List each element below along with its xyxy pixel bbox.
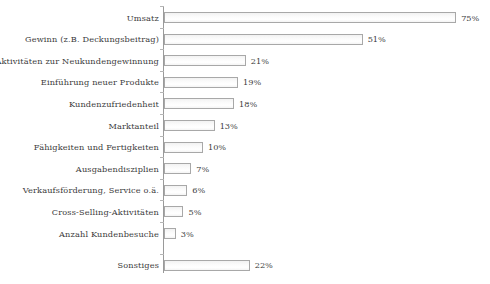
axis-tick <box>160 28 164 29</box>
bar-category-label: Sonstiges <box>117 261 159 269</box>
bar-row: Sonstiges22% <box>0 260 490 271</box>
bar <box>164 12 456 23</box>
axis-tick <box>160 136 164 137</box>
bar-value-label: 21% <box>251 57 269 65</box>
bar-value-label: 51% <box>368 35 386 43</box>
plot-area: Umsatz75%Gewinn (z.B. Deckungsbeitrag)51… <box>0 0 490 284</box>
bar <box>164 77 238 88</box>
bar <box>164 260 250 271</box>
bar-value-label: 75% <box>461 13 479 21</box>
bar-row: Anzahl Kundenbesuche3% <box>0 228 490 239</box>
bar-value-label: 5% <box>188 208 201 216</box>
bar-row: Fähigkeiten und Fertigkeiten10% <box>0 142 490 153</box>
bar-category-label: Gewinn (z.B. Deckungsbeitrag) <box>25 35 159 43</box>
bar-value-label: 6% <box>192 186 205 194</box>
axis-tick <box>160 49 164 50</box>
bar-row: Cross-Selling-Aktivitäten5% <box>0 206 490 217</box>
bar <box>164 185 187 196</box>
bar-value-label: 7% <box>196 165 209 173</box>
bar-value-label: 18% <box>239 100 257 108</box>
bar-category-label: Aktivitäten zur Neukundengewinnung <box>0 57 159 65</box>
bar <box>164 206 183 217</box>
axis-tick <box>160 222 164 223</box>
bar-chart: Umsatz75%Gewinn (z.B. Deckungsbeitrag)51… <box>0 0 490 284</box>
bar-row: Kundenzufriedenheit18% <box>0 98 490 109</box>
bar-category-label: Marktanteil <box>108 121 159 129</box>
bar-value-label: 10% <box>208 143 226 151</box>
axis-tick <box>160 92 164 93</box>
bar-row: Aktivitäten zur Neukundengewinnung21% <box>0 55 490 66</box>
bar-category-label: Fähigkeiten und Fertigkeiten <box>34 143 159 151</box>
bar-category-label: Cross-Selling-Aktivitäten <box>52 208 159 216</box>
bar-row: Verkaufsförderung, Service o.ä.6% <box>0 185 490 196</box>
bar <box>164 34 363 45</box>
bar-category-label: Ausgabendisziplien <box>76 165 159 173</box>
bar-category-label: Kundenzufriedenheit <box>69 100 159 108</box>
axis-tick <box>160 114 164 115</box>
bar <box>164 163 191 174</box>
axis-tick <box>160 254 164 255</box>
bar-category-label: Verkaufsförderung, Service o.ä. <box>23 186 159 194</box>
bar-category-label: Umsatz <box>127 13 159 21</box>
bar-row: Umsatz75% <box>0 12 490 23</box>
bar-category-label: Einführung neuer Produkte <box>41 78 159 86</box>
bar <box>164 120 215 131</box>
bar-value-label: 22% <box>255 261 273 269</box>
bar <box>164 142 203 153</box>
bar-value-label: 19% <box>243 78 261 86</box>
axis-tick <box>160 157 164 158</box>
bar <box>164 228 176 239</box>
bar-row: Gewinn (z.B. Deckungsbeitrag)51% <box>0 34 490 45</box>
axis-tick <box>160 6 164 7</box>
bar <box>164 55 246 66</box>
bar-value-label: 13% <box>220 121 238 129</box>
bar-row: Ausgabendisziplien7% <box>0 163 490 174</box>
bar-category-label: Anzahl Kundenbesuche <box>59 229 159 237</box>
bar-row: Marktanteil13% <box>0 120 490 131</box>
bar-row: Einführung neuer Produkte19% <box>0 77 490 88</box>
bar-value-label: 3% <box>181 229 194 237</box>
axis-tick <box>160 179 164 180</box>
axis-tick <box>160 71 164 72</box>
bar <box>164 98 234 109</box>
axis-tick <box>160 200 164 201</box>
